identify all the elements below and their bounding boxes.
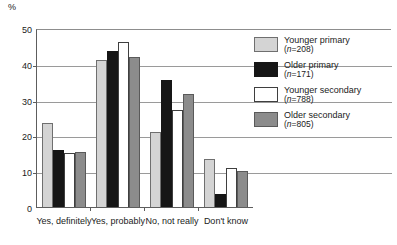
bar bbox=[226, 168, 237, 207]
top-gridline-extension bbox=[253, 29, 391, 30]
legend-item: Younger secondary(n=788) bbox=[254, 86, 394, 108]
x-axis-tick-mark bbox=[198, 207, 199, 211]
legend-series-count: (n=788) bbox=[284, 95, 361, 104]
legend-swatch bbox=[254, 62, 278, 77]
legend-swatch bbox=[254, 87, 278, 102]
bar bbox=[75, 152, 86, 207]
y-axis-tick-label: 20 bbox=[22, 132, 32, 142]
legend-item: Older primary(n=171) bbox=[254, 61, 394, 83]
y-axis-unit-label: % bbox=[8, 2, 16, 12]
x-axis-tick-label: No, not really bbox=[145, 216, 198, 226]
bar-group: No, not really bbox=[145, 30, 199, 207]
bar-group: Don't know bbox=[199, 30, 253, 207]
x-axis-tick-label: Don't know bbox=[204, 216, 248, 226]
legend-item: Older secondary(n=805) bbox=[254, 111, 394, 133]
x-axis-tick-mark bbox=[144, 207, 145, 211]
bar bbox=[129, 57, 140, 207]
bar bbox=[107, 51, 118, 207]
legend-item: Younger primary(n=208) bbox=[254, 36, 394, 58]
bar-groups: Yes, definitelyYes, probablyNo, not real… bbox=[37, 30, 253, 207]
bar bbox=[204, 159, 215, 207]
y-axis-tick-label: 50 bbox=[22, 25, 32, 35]
bar-chart: % 01020304050 Yes, definitelyYes, probab… bbox=[0, 0, 397, 245]
bar bbox=[118, 42, 129, 207]
bar bbox=[161, 80, 172, 207]
y-axis-tick-label: 40 bbox=[22, 61, 32, 71]
legend-text: Older primary(n=171) bbox=[284, 61, 339, 79]
bar bbox=[53, 150, 64, 207]
x-axis-tick-label: Yes, probably bbox=[91, 216, 145, 226]
bar bbox=[172, 110, 183, 207]
legend-text: Younger primary(n=208) bbox=[284, 36, 350, 54]
y-axis-tick-label: 10 bbox=[22, 168, 32, 178]
x-axis-tick-mark bbox=[90, 207, 91, 211]
bar bbox=[64, 153, 75, 207]
y-axis-tick-label: 0 bbox=[27, 204, 32, 214]
bar bbox=[96, 60, 107, 207]
bar bbox=[150, 132, 161, 207]
x-axis-tick-label: Yes, definitely bbox=[36, 216, 91, 226]
legend-text: Younger secondary(n=788) bbox=[284, 86, 361, 104]
legend-series-count: (n=805) bbox=[284, 120, 350, 129]
bar bbox=[237, 171, 248, 207]
chart-legend: Younger primary(n=208)Older primary(n=17… bbox=[254, 36, 394, 136]
legend-series-count: (n=208) bbox=[284, 45, 350, 54]
legend-swatch bbox=[254, 37, 278, 52]
bar bbox=[215, 194, 226, 207]
bar-group: Yes, definitely bbox=[37, 30, 91, 207]
bar bbox=[183, 94, 194, 207]
legend-text: Older secondary(n=805) bbox=[284, 111, 350, 129]
bar-group: Yes, probably bbox=[91, 30, 145, 207]
plot-area: 01020304050 Yes, definitelyYes, probably… bbox=[36, 29, 253, 208]
legend-swatch bbox=[254, 112, 278, 127]
bar bbox=[42, 123, 53, 207]
legend-series-count: (n=171) bbox=[284, 70, 339, 79]
y-axis-tick-label: 30 bbox=[22, 97, 32, 107]
